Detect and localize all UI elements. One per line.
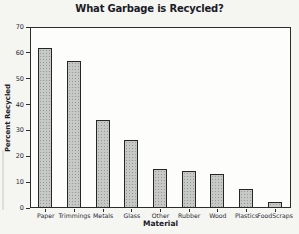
- bar-plastics: [239, 189, 253, 207]
- y-tick-mark-50: [26, 78, 30, 79]
- x-axis-title: Material: [30, 219, 291, 228]
- bar-foodscraps: [268, 202, 282, 207]
- y-tick-mark-60: [26, 52, 30, 53]
- x-category-label-foodscraps: FoodScraps: [257, 212, 293, 219]
- recycling-bar-chart: What Garbage is Recycled? Percent Recycl…: [0, 0, 299, 234]
- y-tick-mark-70: [26, 27, 30, 28]
- y-tick-label-30: 30: [0, 126, 24, 134]
- y-tick-label-70: 70: [0, 23, 24, 31]
- y-tick-mark-10: [26, 182, 30, 183]
- chart-title: What Garbage is Recycled?: [0, 3, 299, 14]
- y-tick-mark-30: [26, 130, 30, 131]
- plot-area: [30, 27, 291, 208]
- scan-artifact: [2, 150, 4, 210]
- bar-wood: [210, 174, 224, 207]
- bar-paper: [38, 48, 52, 207]
- bar-other: [153, 169, 167, 207]
- y-tick-label-40: 40: [0, 101, 24, 109]
- y-tick-label-60: 60: [0, 49, 24, 57]
- y-axis-title: Percent Recycled: [4, 84, 12, 152]
- y-tick-mark-20: [26, 156, 30, 157]
- y-tick-mark-0: [26, 208, 30, 209]
- bar-trimmings: [67, 61, 81, 207]
- bar-rubber: [182, 171, 196, 207]
- y-tick-mark-40: [26, 104, 30, 105]
- y-tick-label-50: 50: [0, 75, 24, 83]
- bar-glass: [124, 140, 138, 207]
- bar-metals: [96, 120, 110, 207]
